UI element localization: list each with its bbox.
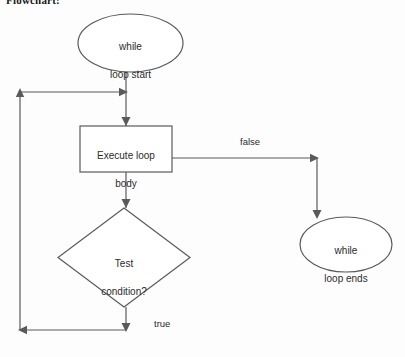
arrowhead-loopback-merge xyxy=(119,88,128,96)
node-start-ellipse[interactable] xyxy=(78,14,183,72)
arrowhead-true-down xyxy=(122,323,131,332)
edge-label-true: true xyxy=(154,318,170,329)
arrowhead-start-to-body xyxy=(122,117,131,126)
edge-label-false: false xyxy=(240,136,260,147)
flowchart-graphics xyxy=(0,0,405,357)
node-end-ellipse[interactable] xyxy=(300,217,392,272)
arrowhead-false-turn xyxy=(310,154,319,162)
node-body-rect[interactable] xyxy=(80,126,172,172)
node-test-diamond[interactable] xyxy=(58,208,190,307)
arrowhead-body-to-test xyxy=(122,199,131,208)
arrowhead-true-left xyxy=(18,326,27,334)
arrowhead-false-to-end xyxy=(313,210,322,219)
flowchart-canvas: Flowchart: while loop start xyxy=(0,0,405,357)
